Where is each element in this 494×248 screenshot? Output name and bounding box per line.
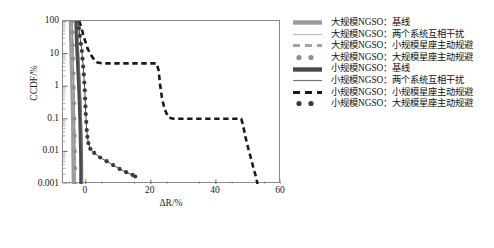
y-tick-label: 100: [45, 15, 59, 25]
solid-thick-line-marker: [292, 64, 326, 75]
series-marker: [73, 149, 77, 153]
legend-label: 大规模NGSO：基线: [331, 17, 410, 29]
series-marker: [82, 80, 86, 84]
series-marker: [72, 117, 76, 121]
legend-label: 小规模NGSO：两个系统互相干扰: [331, 75, 464, 87]
series-marker: [86, 141, 90, 145]
series-marker: [118, 167, 122, 171]
legend-label: 大规模NGSO：两个系统互相干扰: [331, 29, 464, 41]
series-marker: [71, 57, 75, 61]
dotted-circle-marker: [292, 98, 326, 109]
series-marker: [133, 174, 137, 178]
series-marker: [71, 71, 75, 75]
series-marker: [84, 112, 88, 116]
legend-label: 小规模NGSO：大规模星座主动规避: [331, 98, 473, 110]
series-marker: [81, 64, 85, 68]
series-marker: [80, 49, 84, 53]
chart-canvas: [63, 21, 281, 184]
legend-label: 小规模NGSO：小规模星座主动规避: [331, 87, 473, 99]
legend-item: 大规模NGSO：两个系统互相干扰: [292, 29, 492, 41]
legend-item: 大规模NGSO：小规模星座主动规避: [292, 40, 492, 52]
legend-item: 小规模NGSO：小规模星座主动规避: [292, 87, 492, 99]
legend-item: 小规模NGSO：基线: [292, 63, 492, 75]
x-tick-label: 20: [145, 185, 155, 195]
series-marker: [85, 128, 89, 132]
x-axis-tick-labels: 0204060: [62, 185, 280, 199]
series-marker: [111, 163, 115, 167]
series-marker: [83, 96, 87, 100]
dotted-circle-marker: [292, 52, 326, 63]
series-marker: [83, 88, 87, 92]
series-marker: [85, 135, 89, 139]
y-tick-label: 0.01: [42, 145, 59, 155]
legend-item: 大规模NGSO：大规模星座主动规避: [292, 52, 492, 64]
legend-item: 大规模NGSO：基线: [292, 17, 492, 29]
legend-label: 大规模NGSO：大规模星座主动规避: [331, 52, 473, 64]
x-tick-label: 60: [275, 185, 285, 195]
series-marker: [83, 104, 87, 108]
legend-item: 小规模NGSO：两个系统互相干扰: [292, 75, 492, 87]
dashed-line-marker: [292, 87, 326, 98]
series-marker: [92, 151, 96, 155]
x-tick-label: 40: [210, 185, 220, 195]
series-marker: [88, 147, 92, 151]
x-axis-title: ΔR/%: [62, 198, 280, 208]
solid-thick-line-marker: [292, 17, 326, 28]
series-marker: [84, 120, 88, 124]
series-marker: [124, 170, 128, 174]
plot-area: [62, 20, 280, 183]
thin-line-marker: [292, 75, 326, 86]
legend-item: 小规模NGSO：大规模星座主动规避: [292, 98, 492, 110]
series-marker: [80, 57, 84, 61]
y-tick-label: 1: [54, 80, 59, 90]
series-marker: [77, 26, 81, 30]
series-marker: [72, 86, 76, 90]
y-tick-label: 10: [50, 48, 60, 58]
legend-label: 小规模NGSO：基线: [331, 63, 410, 75]
series-marker: [72, 101, 76, 105]
series-marker: [73, 134, 77, 138]
series-marker: [79, 42, 83, 46]
series-marker: [105, 159, 109, 163]
thin-line-marker: [292, 29, 326, 40]
x-tick-label: 0: [82, 185, 87, 195]
series-marker: [71, 43, 75, 47]
y-tick-label: 0.1: [47, 113, 59, 123]
series-marker: [70, 30, 74, 34]
y-axis-title: CCDF/%: [29, 43, 39, 123]
series-marker: [98, 155, 102, 159]
series-marker: [82, 72, 86, 76]
dashed-line-marker: [292, 40, 326, 51]
chart-legend: 大规模NGSO：基线大规模NGSO：两个系统互相干扰大规模NGSO：小规模星座主…: [292, 17, 492, 110]
series-marker: [78, 34, 82, 38]
legend-label: 大规模NGSO：小规模星座主动规避: [331, 40, 473, 52]
y-tick-label: 0.001: [38, 178, 59, 188]
series-marker: [73, 166, 77, 170]
